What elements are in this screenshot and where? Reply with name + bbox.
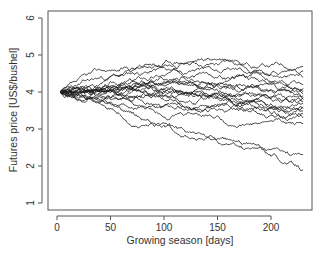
y-tick-label: 6 [25,15,36,21]
y-tick-label: 3 [25,126,36,132]
y-tick-label: 1 [25,200,36,206]
x-tick-label: 0 [54,222,60,233]
y-axis-title: Futures price [US$/bushel] [7,48,19,172]
line-chart: 050100150200 123456 Growing season [days… [0,0,325,256]
x-axis: 050100150200 [54,216,280,233]
price-path [60,92,303,171]
price-paths [60,58,303,170]
y-tick-label: 4 [25,89,36,95]
y-tick-label: 5 [25,52,36,58]
y-axis: 123456 [25,15,42,206]
plot-frame [48,11,312,210]
x-axis-title: Growing season [days] [127,234,234,246]
x-tick-label: 50 [105,222,117,233]
y-tick-label: 2 [25,163,36,169]
x-tick-label: 150 [209,222,226,233]
x-tick-label: 200 [263,222,280,233]
x-tick-label: 100 [156,222,173,233]
